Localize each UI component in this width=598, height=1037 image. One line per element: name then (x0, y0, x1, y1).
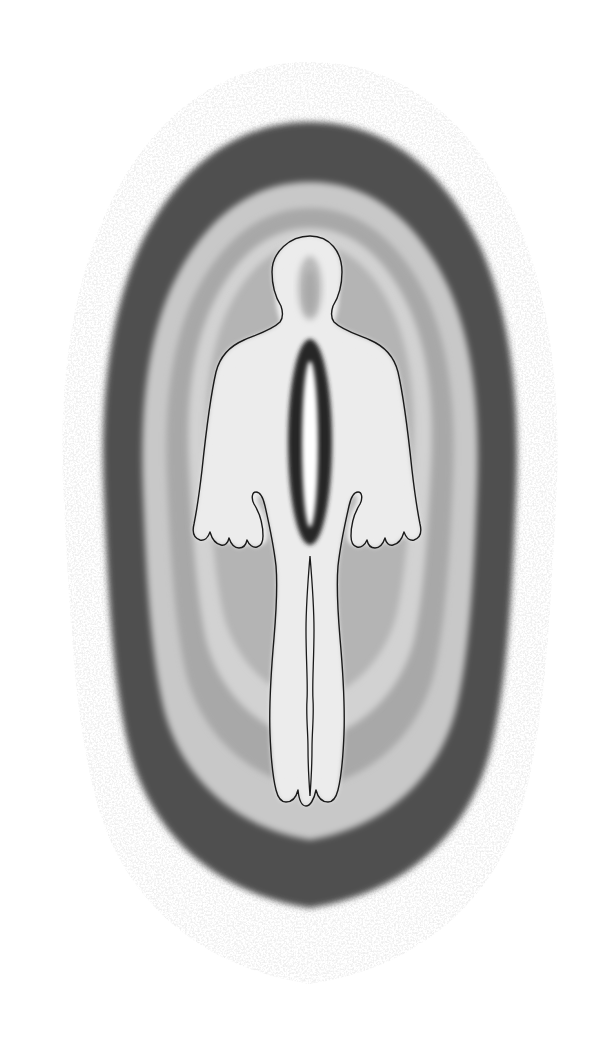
isodose-field-diagram: Isodose field distribution around human … (0, 0, 598, 1037)
figure-root: Isodose field distribution around human … (0, 0, 598, 1037)
hotspot-core (302, 361, 318, 527)
head-halo-core (304, 270, 316, 314)
